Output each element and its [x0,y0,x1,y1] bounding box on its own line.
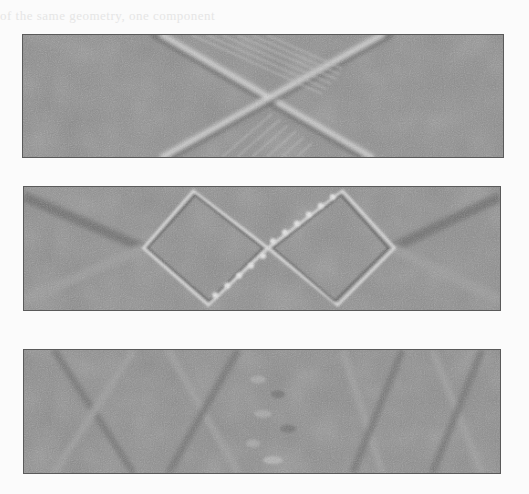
figure-panel-1 [22,34,504,158]
bleed-through-text: of the same geometry, one component [0,8,529,22]
figure-panel-2 [23,186,501,311]
diamond-fronts-image [24,187,500,310]
figure-panel-3 [23,349,501,474]
noisy-pattern-image [24,350,500,473]
wave-crossing-image [23,35,503,157]
